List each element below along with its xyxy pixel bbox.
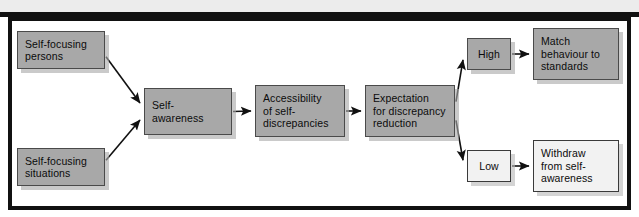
node-expectation-for-discrepancy-reduction: Expectation for discrepancy reduction <box>365 85 455 137</box>
node-label: Accessibility of self- discrepancies <box>263 92 329 129</box>
node-label: Low <box>479 160 499 172</box>
node-label: Withdraw from self- awareness <box>541 147 593 184</box>
node-low: Low <box>467 150 511 182</box>
node-self-focusing-situations: Self-focusing situations <box>17 148 105 186</box>
node-high: High <box>467 38 511 70</box>
node-self-focusing-persons: Self-focusing persons <box>17 31 105 69</box>
node-label: Self-focusing persons <box>25 38 87 63</box>
edge-expectation-to-high <box>456 60 463 102</box>
figure-container: Self-focusing personsSelf-focusing situa… <box>0 0 639 217</box>
edge-awareness-to-accessibility <box>233 111 251 112</box>
node-withdraw-from-self-awareness: Withdraw from self- awareness <box>533 140 619 192</box>
node-label: Expectation for discrepancy reduction <box>373 92 446 129</box>
node-label: Self-focusing situations <box>25 155 87 180</box>
diagram-canvas: Self-focusing personsSelf-focusing situa… <box>0 0 639 217</box>
node-label: Match behaviour to standards <box>541 35 600 72</box>
node-label: Self- awareness <box>152 99 204 124</box>
node-self-awareness: Self- awareness <box>144 88 232 135</box>
node-label: High <box>478 48 500 60</box>
edge-persons-to-awareness <box>106 57 140 103</box>
node-accessibility-of-self-discrepancies: Accessibility of self- discrepancies <box>255 85 345 137</box>
edge-expectation-to-low <box>456 120 463 160</box>
edge-situations-to-awareness <box>106 120 140 160</box>
node-match-behaviour-to-standards: Match behaviour to standards <box>533 28 619 80</box>
